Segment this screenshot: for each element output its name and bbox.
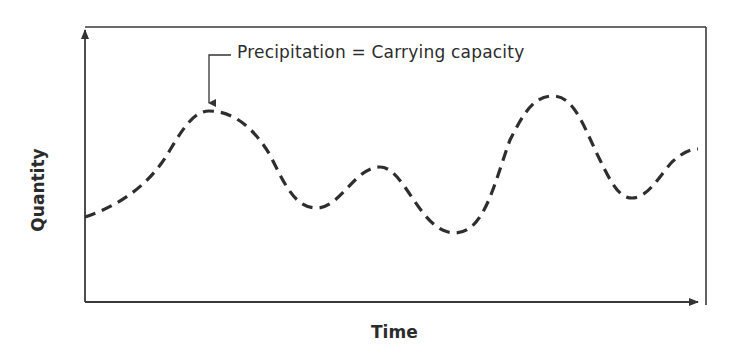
carrying-capacity-curve <box>85 96 698 233</box>
x-axis-label: Time <box>371 322 418 342</box>
annotation-leader-line <box>209 55 231 103</box>
y-axis-label: Quantity <box>28 148 48 231</box>
annotation-label: Precipitation = Carrying capacity <box>237 42 524 62</box>
